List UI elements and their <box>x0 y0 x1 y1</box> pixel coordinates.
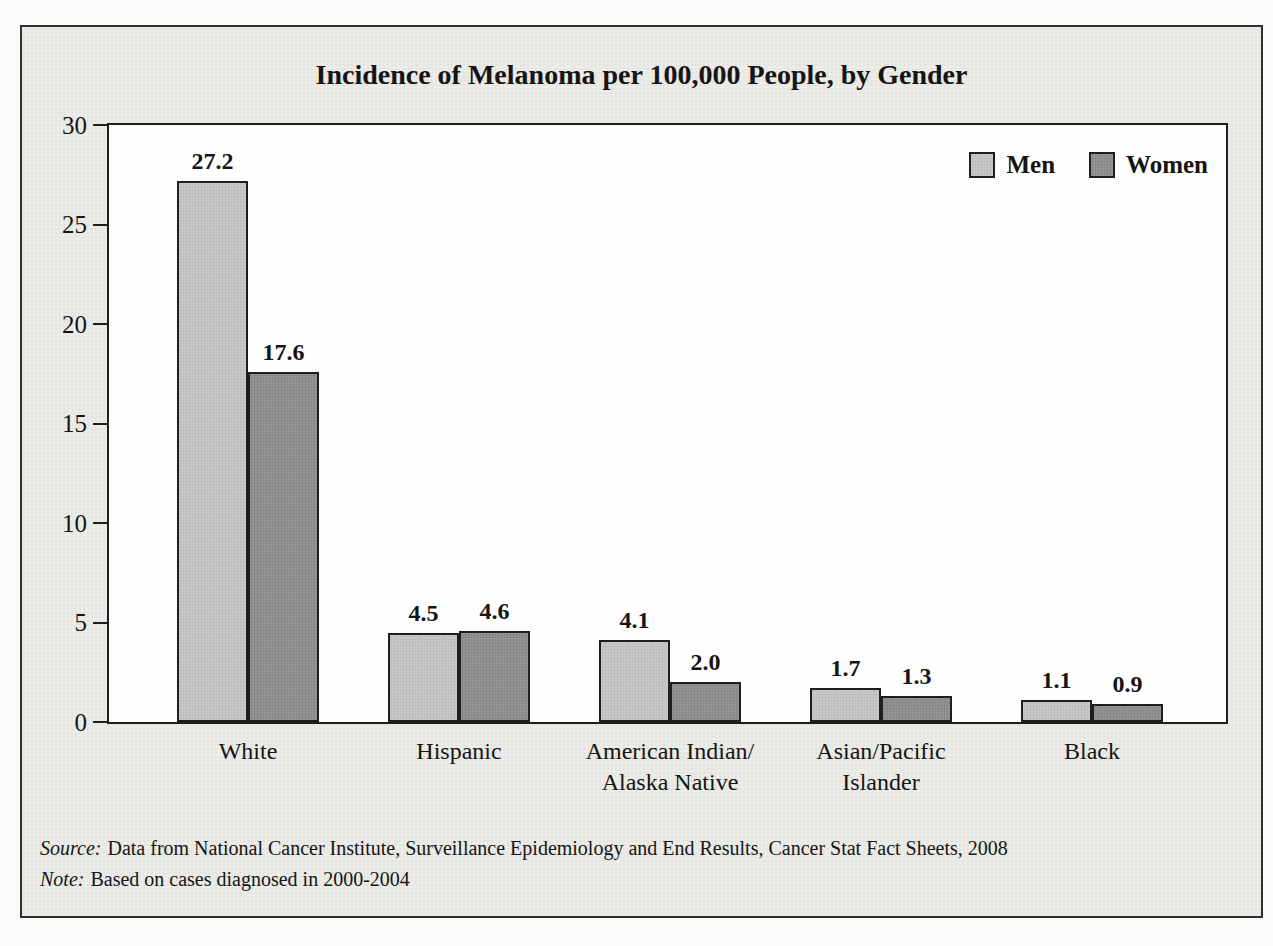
footer: Source:Data from National Cancer Institu… <box>40 833 1008 895</box>
bar-women-3 <box>881 696 952 722</box>
bar-women-4 <box>1092 704 1163 722</box>
source-text: Data from National Cancer Institute, Sur… <box>107 837 1007 859</box>
plot-area: Men Women 05101520253027.217.64.54.64.12… <box>107 123 1228 724</box>
bar-value-label: 4.6 <box>434 598 555 624</box>
source-label: Source: <box>40 837 101 859</box>
note-label: Note: <box>40 868 84 890</box>
bar-value-label: 17.6 <box>223 339 344 365</box>
bar-value-label: 27.2 <box>152 148 273 174</box>
y-axis-tick <box>93 224 107 226</box>
bar-men-1 <box>388 633 459 723</box>
note-text: Based on cases diagnosed in 2000-2004 <box>90 868 409 890</box>
legend-item-women: Women <box>1089 151 1208 179</box>
y-axis-tick <box>93 423 107 425</box>
y-axis-tick <box>93 721 107 723</box>
footer-source-line: Source:Data from National Cancer Institu… <box>40 833 1008 864</box>
legend-label-men: Men <box>1006 151 1055 179</box>
chart-frame: Incidence of Melanoma per 100,000 People… <box>20 25 1263 918</box>
category-label: Asian/Pacific Islander <box>761 736 1001 798</box>
y-axis-tick-label: 0 <box>35 707 87 738</box>
y-axis-tick <box>93 124 107 126</box>
y-axis-tick <box>93 522 107 524</box>
bar-value-label: 1.3 <box>856 663 977 689</box>
bar-men-0 <box>177 181 248 722</box>
y-axis-tick-label: 30 <box>35 110 87 141</box>
footer-note-line: Note:Based on cases diagnosed in 2000-20… <box>40 864 1008 895</box>
legend-swatch-men <box>969 152 995 178</box>
bar-women-0 <box>248 372 319 722</box>
category-label: American Indian/ Alaska Native <box>550 736 790 798</box>
y-axis-tick-label: 5 <box>35 607 87 638</box>
y-axis-tick-label: 20 <box>35 309 87 340</box>
legend-item-men: Men <box>969 151 1055 179</box>
category-label: Hispanic <box>339 736 579 767</box>
bar-men-3 <box>810 688 881 722</box>
y-axis-tick <box>93 622 107 624</box>
y-axis-tick-label: 15 <box>35 408 87 439</box>
legend: Men Women <box>969 151 1208 179</box>
category-label: Black <box>972 736 1212 767</box>
y-axis-tick-label: 10 <box>35 508 87 539</box>
bar-value-label: 2.0 <box>645 649 766 675</box>
bar-men-4 <box>1021 700 1092 722</box>
legend-label-women: Women <box>1126 151 1208 179</box>
bar-value-label: 0.9 <box>1067 671 1188 697</box>
legend-swatch-women <box>1089 152 1115 178</box>
y-axis-tick <box>93 323 107 325</box>
y-axis-tick-label: 25 <box>35 209 87 240</box>
bar-women-1 <box>459 631 530 723</box>
bar-value-label: 4.1 <box>574 607 695 633</box>
bar-women-2 <box>670 682 741 722</box>
category-label: White <box>128 736 368 767</box>
chart-title: Incidence of Melanoma per 100,000 People… <box>22 57 1261 93</box>
